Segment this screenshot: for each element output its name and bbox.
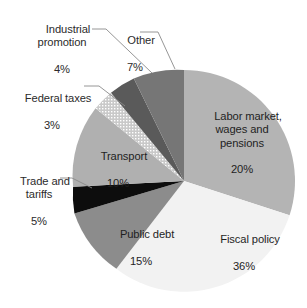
slice-label-public-debt: Public debt 15% <box>99 215 183 294</box>
slice-label-other-text: Other <box>127 34 154 46</box>
slice-label-trade-and-tariffs: Trade and tariffs 5% <box>2 162 76 255</box>
slice-label-federal-taxes-percent: 3% <box>4 119 100 132</box>
slice-label-trade-and-tariffs-percent: 5% <box>2 215 76 228</box>
slice-label-fiscal-policy-text: Fiscal policy <box>220 233 280 245</box>
slice-label-public-debt-percent: 15% <box>99 255 183 268</box>
slice-label-public-debt-text: Public debt <box>120 228 174 240</box>
slice-label-labor-market-text: Labor market, wages and pensions <box>214 110 282 148</box>
slice-label-other: Other 7% <box>104 21 166 100</box>
slice-label-labor-market: Labor market, wages and pensions 20% <box>190 97 294 203</box>
slice-label-industrial-promotion-text: Industrial promotion <box>38 23 91 48</box>
slice-label-transport: Transport 10% <box>79 137 157 216</box>
slice-label-transport-text: Transport <box>101 150 148 162</box>
pie-chart: Industrial promotion 4% Other 7% Federal… <box>0 0 307 308</box>
slice-label-other-percent: 7% <box>104 61 166 74</box>
slice-label-fiscal-policy-percent: 36% <box>196 260 292 273</box>
slice-label-fiscal-policy: Fiscal policy 36% <box>196 220 292 299</box>
slice-label-trade-and-tariffs-text: Trade and tariffs <box>20 175 70 200</box>
slice-label-industrial-promotion-percent: 4% <box>14 63 110 76</box>
slice-label-transport-percent: 10% <box>79 177 157 190</box>
slice-label-federal-taxes-text: Federal taxes <box>25 92 91 104</box>
slice-label-labor-market-percent: 20% <box>190 163 294 176</box>
